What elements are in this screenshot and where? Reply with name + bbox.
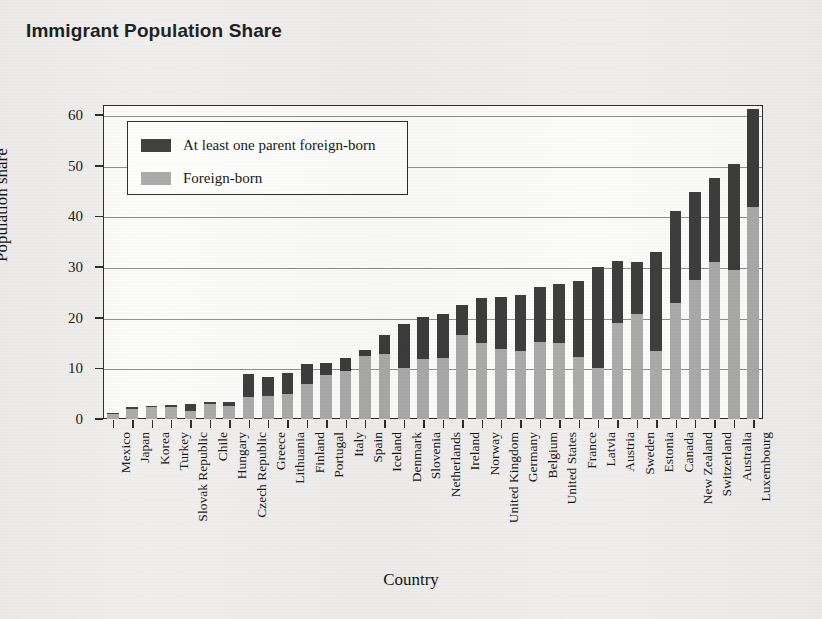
x-tick-label: Belgium bbox=[545, 432, 561, 479]
bar-column bbox=[612, 105, 624, 419]
x-tick-label: Spain bbox=[370, 432, 386, 463]
bar-segment-parent-foreign-born bbox=[592, 267, 604, 368]
bar-segment-parent-foreign-born bbox=[282, 373, 294, 393]
x-tick-label: Japan bbox=[137, 432, 153, 463]
x-tick-mark bbox=[152, 420, 153, 428]
bar-column bbox=[573, 105, 585, 419]
x-tick-label: Netherlands bbox=[448, 432, 464, 497]
x-tick-label: Iceland bbox=[389, 432, 405, 472]
x-axis-title: Country bbox=[0, 570, 822, 590]
y-tick-label-30: 30 bbox=[49, 259, 83, 276]
bar-segment-foreign-born bbox=[185, 411, 197, 419]
bar-segment-foreign-born bbox=[495, 349, 507, 419]
bar-segment-parent-foreign-born bbox=[165, 405, 177, 407]
legend-item: At least one parent foreign-born bbox=[141, 135, 375, 155]
chart-title: Immigrant Population Share bbox=[26, 20, 282, 42]
bar-segment-foreign-born bbox=[340, 371, 352, 419]
x-tick-label: Estonia bbox=[661, 432, 677, 473]
x-tick-mark bbox=[443, 420, 444, 428]
x-tick-mark bbox=[113, 420, 114, 428]
x-tick-label: Ireland bbox=[467, 432, 483, 470]
bar-segment-parent-foreign-born bbox=[126, 407, 138, 409]
bar-segment-foreign-born bbox=[612, 323, 624, 419]
bar-column bbox=[107, 105, 119, 419]
bar-segment-parent-foreign-born bbox=[146, 406, 158, 408]
bar-segment-foreign-born bbox=[476, 343, 488, 419]
x-tick-label: Finland bbox=[312, 432, 328, 473]
x-tick-mark bbox=[501, 420, 502, 428]
bar-segment-foreign-born bbox=[437, 358, 449, 419]
x-tick-mark bbox=[559, 420, 560, 428]
y-tick-mark-40 bbox=[95, 216, 103, 218]
bar-segment-foreign-born bbox=[553, 343, 565, 419]
bar-segment-parent-foreign-born bbox=[495, 297, 507, 349]
x-tick-mark bbox=[346, 420, 347, 428]
x-tick-mark bbox=[676, 420, 677, 428]
x-tick-label: Turkey bbox=[176, 432, 192, 471]
x-tick-label: Germany bbox=[525, 432, 541, 482]
bar-segment-foreign-born bbox=[573, 357, 585, 419]
x-tick-label: Canada bbox=[681, 432, 697, 472]
bar-segment-parent-foreign-born bbox=[631, 262, 643, 314]
bar-segment-foreign-born bbox=[165, 407, 177, 419]
bar-segment-foreign-born bbox=[670, 303, 682, 419]
y-tick-mark-50 bbox=[95, 165, 103, 167]
chart-figure: Immigrant Population Share 0102030405060… bbox=[0, 0, 822, 619]
x-tick-mark bbox=[365, 420, 366, 428]
x-tick-label: Chile bbox=[215, 432, 231, 461]
bar-segment-parent-foreign-born bbox=[359, 350, 371, 356]
bar-column bbox=[515, 105, 527, 419]
bar-column bbox=[709, 105, 721, 419]
bar-column bbox=[476, 105, 488, 419]
bar-segment-parent-foreign-born bbox=[262, 377, 274, 396]
bar-segment-foreign-born bbox=[728, 270, 740, 419]
bar-segment-parent-foreign-born bbox=[747, 109, 759, 208]
x-tick-label: Hungary bbox=[234, 432, 250, 479]
x-tick-mark bbox=[753, 420, 754, 428]
bar-segment-parent-foreign-born bbox=[456, 305, 468, 335]
x-tick-mark bbox=[695, 420, 696, 428]
x-tick-label: Latvia bbox=[603, 432, 619, 466]
x-tick-mark bbox=[656, 420, 657, 428]
x-tick-label: Greece bbox=[273, 432, 289, 470]
y-tick-label-10: 10 bbox=[49, 360, 83, 377]
x-tick-mark bbox=[326, 420, 327, 428]
bar-segment-parent-foreign-born bbox=[223, 402, 235, 406]
bar-column bbox=[631, 105, 643, 419]
bar-column bbox=[650, 105, 662, 419]
x-tick-label: Korea bbox=[157, 432, 173, 465]
x-tick-mark bbox=[637, 420, 638, 428]
x-tick-label: Slovenia bbox=[428, 432, 444, 479]
bar-segment-foreign-born bbox=[534, 342, 546, 419]
x-tick-mark bbox=[423, 420, 424, 428]
bar-segment-foreign-born bbox=[146, 407, 158, 419]
y-tick-mark-10 bbox=[95, 368, 103, 370]
bar-segment-parent-foreign-born bbox=[185, 404, 197, 411]
bar-segment-parent-foreign-born bbox=[709, 178, 721, 262]
bar-segment-foreign-born bbox=[320, 375, 332, 419]
bar-segment-parent-foreign-born bbox=[243, 374, 255, 397]
x-tick-label: Austria bbox=[622, 432, 638, 472]
legend-swatch bbox=[141, 139, 171, 152]
bar-segment-foreign-born bbox=[301, 384, 313, 419]
x-tick-mark bbox=[404, 420, 405, 428]
bar-segment-foreign-born bbox=[262, 396, 274, 419]
bar-column bbox=[456, 105, 468, 419]
bar-column bbox=[534, 105, 546, 419]
x-tick-mark bbox=[579, 420, 580, 428]
bar-segment-parent-foreign-born bbox=[476, 298, 488, 343]
legend-label: Foreign-born bbox=[183, 170, 262, 187]
bar-segment-parent-foreign-born bbox=[320, 363, 332, 375]
x-tick-label: Switzerland bbox=[719, 432, 735, 496]
chart-legend: At least one parent foreign-bornForeign-… bbox=[127, 121, 408, 195]
x-tick-mark bbox=[171, 420, 172, 428]
bar-segment-foreign-born bbox=[417, 359, 429, 419]
bar-segment-foreign-born bbox=[515, 351, 527, 419]
bar-segment-foreign-born bbox=[650, 351, 662, 419]
x-tick-mark bbox=[229, 420, 230, 428]
bar-segment-foreign-born bbox=[282, 394, 294, 419]
bar-segment-parent-foreign-born bbox=[379, 335, 391, 354]
bar-segment-foreign-born bbox=[631, 314, 643, 419]
x-tick-mark bbox=[287, 420, 288, 428]
bar-column bbox=[728, 105, 740, 419]
